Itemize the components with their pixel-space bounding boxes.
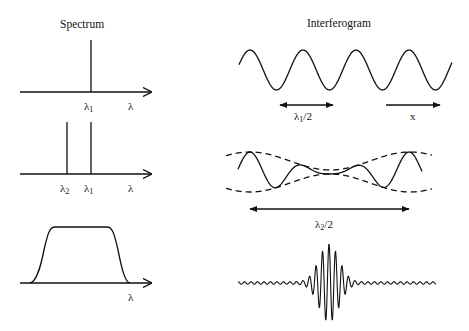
- spectrum-title: Spectrum: [60, 18, 104, 30]
- lambda1-label: λ1: [84, 182, 93, 198]
- spectrum-panel-single-line: [20, 40, 151, 92]
- lambda1-label: λ1: [84, 100, 93, 116]
- half-wavelength-1-label: λ1/2: [294, 110, 312, 126]
- diagram-drawing: [0, 0, 469, 331]
- lambda-axis-label: λ: [128, 291, 133, 303]
- interferogram-panel-beat: [226, 152, 432, 209]
- spectrum-interferogram-diagram: Spectrum Interferogram λ1 λ λ2 λ1 λ λ λ1…: [0, 0, 469, 331]
- x-axis-label: x: [410, 110, 416, 122]
- lambda-axis-label: λ: [128, 182, 133, 194]
- interferogram-panel-single-cosine: [239, 50, 452, 105]
- interferogram-title: Interferogram: [307, 17, 371, 29]
- lambda-axis-label: λ: [128, 100, 133, 112]
- interferogram-panel-burst: [238, 245, 436, 320]
- spectrum-panel-two-lines: [20, 122, 151, 174]
- lambda2-label: λ2: [60, 182, 69, 198]
- half-wavelength-2-label: λ2/2: [315, 218, 333, 234]
- spectrum-panel-broadband: [20, 227, 151, 283]
